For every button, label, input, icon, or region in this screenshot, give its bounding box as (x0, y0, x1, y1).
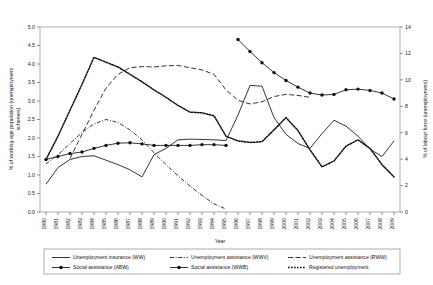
x-tick-label: 2009 (389, 218, 395, 230)
data-point-abw (212, 143, 215, 146)
x-tick-label: 2007 (365, 218, 371, 230)
x-tick-label: 1993 (197, 218, 203, 230)
legend-marker-3 (59, 266, 63, 270)
x-tick-label: 1998 (257, 218, 263, 230)
series-ww (46, 85, 394, 184)
unemployment-line-chart: 0.00.51.01.52.02.53.03.54.04.55.0 024681… (0, 0, 433, 285)
data-point-abw (176, 144, 179, 147)
x-tick-label: 1984 (89, 218, 95, 230)
data-point-abw (152, 144, 155, 147)
series-line-ww (46, 85, 394, 184)
x-tick-label: 1986 (113, 218, 119, 230)
x-tick-label: 2000 (281, 218, 287, 230)
data-point-abw (92, 147, 95, 150)
x-tick-label: 1992 (185, 218, 191, 230)
data-point-abw (224, 144, 227, 147)
data-point-wwb (308, 91, 311, 94)
data-point-abw (116, 141, 119, 144)
y-left-tick-label: 0.0 (28, 209, 35, 215)
data-point-wwb (368, 89, 371, 92)
y-axis-left-ticks: 0.00.51.01.52.02.53.03.54.04.55.0 (28, 24, 40, 215)
data-point-wwb (392, 97, 395, 100)
y-left-tick-label: 2.5 (28, 116, 35, 122)
x-tick-label: 1989 (149, 218, 155, 230)
legend-label-0: Unemployment insurance (WW) (73, 254, 145, 260)
y-left-tick-label: 3.5 (28, 79, 35, 85)
data-point-abw (80, 150, 83, 153)
chart-legend: Unemployment insurance (WW)Unemployment … (44, 249, 400, 274)
x-tick-label: 1980 (41, 218, 47, 230)
y-left-tick-label: 4.5 (28, 42, 35, 48)
series-line-reg (46, 57, 394, 177)
y-left-tick-label: 0.5 (28, 190, 35, 196)
y-axis-right-title: % of labour force (unemployment) (422, 80, 428, 158)
x-tick-label: 1985 (101, 218, 107, 230)
y-right-tick-label: 8 (405, 103, 408, 109)
x-tick-label: 2001 (293, 218, 299, 230)
data-point-wwb (356, 87, 359, 90)
data-point-wwb (284, 79, 287, 82)
series-line-abw (46, 143, 226, 160)
series-line-wwv (46, 120, 226, 210)
legend-label-4: Social assistance (WWB) (191, 264, 248, 270)
data-point-abw (140, 142, 143, 145)
series-wwb (236, 38, 395, 101)
x-tick-label: 2006 (353, 218, 359, 230)
y-axis-right-ticks: 02468101214 (400, 24, 411, 215)
x-tick-label: 1981 (53, 218, 59, 230)
y-axis-left-title: % of working-age population (unemploymen… (8, 67, 14, 170)
data-point-wwb (236, 38, 239, 41)
legend-label-1: Unemployment assistance (WWV) (191, 254, 269, 260)
data-point-abw (188, 144, 191, 147)
y-left-tick-label: 1.0 (28, 172, 35, 178)
y-right-tick-label: 10 (405, 77, 411, 83)
series-wwv (46, 120, 226, 210)
x-axis-title: Year (215, 238, 226, 244)
x-tick-label: 1983 (77, 218, 83, 230)
x-tick-label: 2003 (317, 218, 323, 230)
data-point-wwb (272, 71, 275, 74)
plot-frame (40, 27, 400, 212)
legend-label-3: Social assistance (ABW) (73, 264, 129, 270)
x-tick-label: 1997 (245, 218, 251, 230)
data-point-abw (104, 144, 107, 147)
y-right-tick-label: 0 (405, 209, 408, 215)
x-tick-label: 1990 (161, 218, 167, 230)
chart-figure: 0.00.51.01.52.02.53.03.54.04.55.0 024681… (0, 0, 433, 285)
y-right-tick-label: 12 (405, 50, 411, 56)
x-tick-label: 1999 (269, 218, 275, 230)
y-left-tick-label: 2.0 (28, 135, 35, 141)
data-point-abw (128, 141, 131, 144)
y-left-tick-label: 4.0 (28, 61, 35, 67)
y-left-tick-label: 5.0 (28, 24, 35, 30)
y-axis-left-title-line2: schemes) (15, 107, 21, 130)
data-point-wwb (332, 93, 335, 96)
data-point-abw (68, 152, 71, 155)
x-tick-label: 1982 (65, 218, 71, 230)
legend-label-2: Unemployment assistance (RWW) (309, 254, 387, 260)
x-tick-label: 1991 (173, 218, 179, 230)
x-tick-label: 2002 (305, 218, 311, 230)
data-point-wwb (380, 91, 383, 94)
data-point-abw (164, 144, 167, 147)
y-left-tick-label: 3.0 (28, 98, 35, 104)
data-point-wwb (344, 88, 347, 91)
x-tick-label: 2008 (377, 218, 383, 230)
y-left-tick-label: 1.5 (28, 153, 35, 159)
data-point-wwb (248, 50, 251, 53)
data-point-wwb (260, 61, 263, 64)
series-reg (46, 57, 394, 177)
data-point-abw (56, 155, 59, 158)
x-tick-label: 2005 (341, 218, 347, 230)
legend-label-5: Registered unemployment (309, 264, 369, 270)
data-point-wwb (320, 93, 323, 96)
y-right-tick-label: 6 (405, 130, 408, 136)
x-tick-label: 2004 (329, 218, 335, 230)
legend-marker-4 (177, 266, 181, 270)
x-tick-label: 1988 (137, 218, 143, 230)
x-tick-label: 1995 (221, 218, 227, 230)
data-point-wwb (296, 85, 299, 88)
series-lines (44, 38, 395, 209)
y-right-tick-label: 14 (405, 24, 411, 30)
x-axis-ticks: 1980198119821983198419851986198719881989… (41, 212, 395, 230)
